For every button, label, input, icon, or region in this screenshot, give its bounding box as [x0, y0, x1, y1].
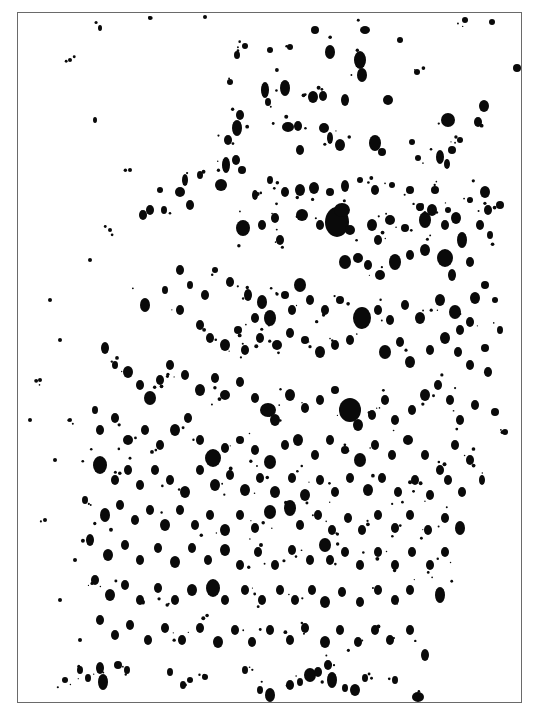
ink-droplet — [146, 308, 148, 310]
ink-droplet — [247, 566, 250, 569]
ink-droplet — [296, 305, 297, 306]
ink-blob — [375, 270, 385, 280]
ink-blob — [397, 37, 403, 43]
ink-blob — [166, 360, 174, 370]
ink-droplet — [337, 415, 338, 416]
ink-blob — [111, 630, 119, 640]
ink-blob — [466, 317, 474, 327]
ink-droplet — [484, 372, 485, 373]
ink-blob — [346, 335, 354, 345]
ink-droplet — [205, 614, 209, 618]
ink-droplet — [111, 234, 114, 237]
ink-droplet — [259, 543, 263, 547]
ink-blob — [162, 286, 168, 294]
ink-droplet — [184, 684, 187, 687]
ink-blob — [319, 538, 331, 552]
ink-blob — [435, 294, 445, 306]
ink-droplet — [445, 202, 446, 203]
ink-blob — [286, 635, 294, 645]
ink-droplet — [308, 341, 309, 342]
ink-droplet — [121, 371, 122, 372]
ink-droplet — [249, 666, 251, 668]
ink-droplet — [40, 520, 42, 522]
ink-droplet — [472, 179, 475, 182]
ink-blob — [345, 225, 355, 235]
ink-blob — [287, 44, 293, 50]
ink-blob — [436, 150, 444, 164]
ink-droplet — [357, 19, 360, 22]
ink-blob — [126, 620, 134, 630]
ink-droplet — [164, 208, 166, 210]
ink-blob — [211, 373, 219, 383]
ink-blob — [257, 686, 263, 694]
ink-droplet — [251, 669, 253, 671]
ink-droplet — [308, 345, 311, 348]
ink-droplet — [368, 673, 371, 676]
ink-droplet — [377, 586, 379, 588]
ink-droplet — [240, 564, 242, 566]
ink-blob — [224, 135, 232, 145]
ink-blob — [103, 549, 113, 561]
ink-droplet — [217, 134, 219, 136]
ink-droplet — [322, 313, 325, 316]
ink-droplet — [254, 344, 258, 348]
ink-blob — [178, 635, 186, 645]
ink-blob — [220, 339, 230, 351]
ink-blob — [220, 524, 230, 536]
ink-blob — [281, 187, 289, 197]
ink-droplet — [214, 338, 217, 341]
ink-blob — [92, 406, 98, 414]
ink-blob — [136, 380, 144, 390]
ink-droplet — [81, 539, 85, 543]
ink-droplet — [118, 423, 121, 426]
ink-blob — [236, 377, 244, 387]
ink-blob — [295, 184, 305, 196]
ink-blob — [284, 500, 296, 516]
ink-blob — [265, 98, 271, 106]
ink-blob — [479, 475, 485, 485]
ink-droplet — [478, 210, 480, 212]
ink-blob — [357, 177, 363, 183]
ink-blob — [222, 157, 230, 173]
ink-blob — [476, 220, 484, 230]
ink-blob — [339, 255, 351, 269]
ink-blob — [381, 395, 389, 405]
ink-droplet — [275, 89, 278, 92]
ink-droplet — [378, 311, 380, 313]
ink-blob — [101, 342, 109, 354]
ink-droplet — [304, 93, 307, 96]
ink-blob — [238, 166, 246, 174]
ink-blob — [389, 182, 395, 188]
ink-droplet — [275, 68, 279, 72]
ink-droplet — [90, 582, 93, 585]
ink-droplet — [276, 181, 280, 185]
ink-droplet — [278, 404, 280, 406]
ink-blob — [112, 361, 118, 369]
ink-blob — [391, 523, 399, 533]
ink-droplet — [385, 238, 386, 239]
ink-droplet — [420, 203, 424, 207]
ink-blob — [220, 390, 230, 400]
ink-blob — [466, 257, 474, 267]
ink-droplet — [88, 585, 89, 586]
ink-droplet — [418, 208, 421, 211]
ink-blob — [248, 637, 256, 647]
ink-blob — [258, 220, 266, 230]
ink-droplet — [271, 527, 272, 528]
ink-droplet — [393, 430, 395, 432]
ink-droplet — [228, 78, 230, 80]
ink-droplet — [410, 229, 413, 232]
ink-droplet — [446, 506, 448, 508]
ink-blob — [360, 26, 370, 34]
ink-blob — [251, 445, 259, 455]
ink-droplet — [301, 402, 303, 404]
ink-droplet — [276, 229, 278, 231]
ink-droplet — [366, 522, 370, 526]
ink-blob — [456, 415, 464, 425]
ink-droplet — [482, 472, 483, 473]
ink-droplet — [178, 488, 180, 490]
ink-blob — [296, 145, 304, 155]
ink-blob — [341, 180, 349, 192]
ink-droplet — [376, 407, 377, 408]
ink-blob — [251, 393, 259, 403]
